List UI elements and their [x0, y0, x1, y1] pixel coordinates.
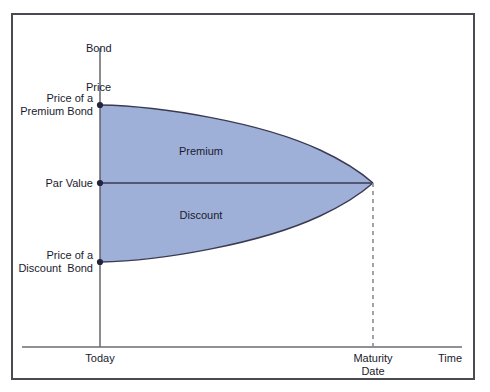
- bond-price-convergence-figure: Bond Price Time Price of a Premium Bond …: [0, 0, 490, 392]
- maturity-date-tick-label: Maturity Date: [335, 352, 411, 378]
- discount-region-label: Discount: [161, 209, 241, 222]
- par-value-label: Par Value: [0, 177, 93, 190]
- premium-region-label: Premium: [161, 145, 241, 158]
- y-axis-title-line1: Bond: [86, 42, 112, 55]
- figure-frame-border: [11, 13, 475, 380]
- x-axis-title: Time: [438, 352, 462, 365]
- discount-bond-price-label: Price of a Discount Bond: [0, 249, 93, 275]
- today-tick-label: Today: [62, 352, 138, 365]
- premium-bond-price-label: Price of a Premium Bond: [0, 92, 93, 118]
